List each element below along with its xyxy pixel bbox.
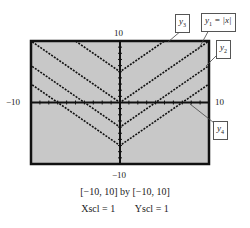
xmax-label: 10	[215, 97, 224, 107]
ymax-label: 10	[114, 28, 123, 38]
scale-caption: Xscl = 1 Yscl = 1	[0, 203, 250, 215]
window-range-caption: [−10, 10] by [−10, 10]	[0, 186, 250, 198]
legend-y1: y1 = |x|	[201, 13, 236, 32]
ymin-label: −10	[112, 170, 126, 180]
xmin-label: −10	[6, 97, 20, 107]
legend-y4: y4	[213, 121, 228, 140]
legend-y3: y3	[175, 14, 190, 33]
legend-y2: y2	[216, 40, 231, 59]
